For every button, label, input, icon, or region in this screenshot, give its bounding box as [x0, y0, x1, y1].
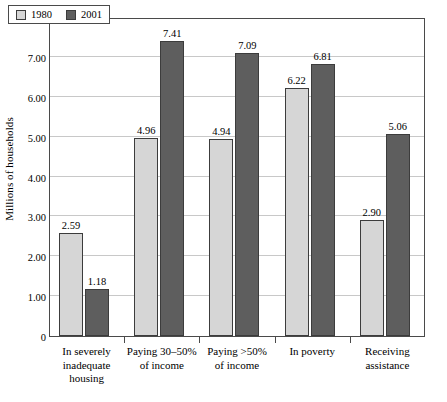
- legend-label: 1980: [31, 9, 52, 20]
- bar: [285, 88, 309, 336]
- x-axis-tick: [199, 337, 200, 343]
- plot-area: 2.591.184.967.414.947.096.226.812.905.06: [49, 18, 425, 337]
- y-axis-tick-label: 5.00: [28, 132, 46, 143]
- bar-group: 2.591.18: [50, 19, 125, 336]
- bar-value-label: 7.09: [227, 40, 267, 51]
- y-axis-tick-label: 6.00: [28, 92, 46, 103]
- bar-group: 4.967.41: [125, 19, 200, 336]
- bar-chart: Millions of households 01.002.003.004.00…: [0, 0, 447, 402]
- legend: 19802001: [8, 5, 110, 24]
- bar-group: 4.947.09: [200, 19, 275, 336]
- y-axis-tick-label: 2.00: [28, 252, 46, 263]
- bars-layer: 2.591.184.967.414.947.096.226.812.905.06: [50, 19, 424, 336]
- x-axis-category-label-line: Paying 30–50%: [124, 345, 199, 359]
- x-axis-category-label-line: Receiving: [350, 345, 425, 359]
- bar-value-label: 1.18: [77, 276, 117, 287]
- bar-value-label: 5.06: [378, 121, 418, 132]
- bar: [360, 220, 384, 336]
- x-axis-ticks: [49, 337, 425, 344]
- y-axis-tick-label: 7.00: [28, 52, 46, 63]
- bar-value-label: 2.59: [51, 220, 91, 231]
- bar: [235, 53, 259, 336]
- bar-value-label: 7.41: [152, 28, 192, 39]
- x-axis-category-label: Paying >50%of income: [199, 345, 274, 372]
- x-axis-category-label: In poverty: [275, 345, 350, 359]
- y-axis-tick-label: 3.00: [28, 212, 46, 223]
- bar: [386, 134, 410, 336]
- legend-item: 2001: [66, 9, 102, 20]
- legend-swatch-icon: [16, 10, 26, 20]
- bar: [85, 289, 109, 336]
- bar-group: 6.226.81: [276, 19, 351, 336]
- x-axis-category-label-line: assistance: [350, 359, 425, 373]
- x-axis-category-label-line: In severely: [49, 345, 124, 359]
- bar: [134, 138, 158, 336]
- y-axis-tick-label: 4.00: [28, 172, 46, 183]
- x-axis-tick: [350, 337, 351, 343]
- bar: [311, 64, 335, 336]
- x-axis-category-label-line: of income: [199, 359, 274, 373]
- x-axis-category-label: In severelyinadequatehousing: [49, 345, 124, 386]
- bar: [160, 41, 184, 336]
- x-axis-tick: [124, 337, 125, 343]
- bar-group: 2.905.06: [351, 19, 425, 336]
- bar: [209, 139, 233, 336]
- x-axis-category-label-line: housing: [49, 372, 124, 386]
- legend-swatch-icon: [66, 10, 76, 20]
- legend-label: 2001: [81, 9, 102, 20]
- x-axis-category-label-line: In poverty: [275, 345, 350, 359]
- x-axis-category-labels: In severelyinadequatehousingPaying 30–50…: [49, 345, 425, 402]
- legend-item: 1980: [16, 9, 52, 20]
- x-axis-tick: [275, 337, 276, 343]
- x-axis-category-label-line: inadequate: [49, 359, 124, 373]
- x-axis-category-label-line: Paying >50%: [199, 345, 274, 359]
- y-axis-tick-label: 0: [41, 332, 46, 343]
- bar-value-label: 6.81: [303, 51, 343, 62]
- x-axis-category-label-line: of income: [124, 359, 199, 373]
- y-axis-tick-labels: 01.002.003.004.005.006.007.008.00: [14, 18, 46, 337]
- x-axis-category-label: Paying 30–50%of income: [124, 345, 199, 372]
- y-axis-tick-label: 1.00: [28, 292, 46, 303]
- x-axis-category-label: Receivingassistance: [350, 345, 425, 372]
